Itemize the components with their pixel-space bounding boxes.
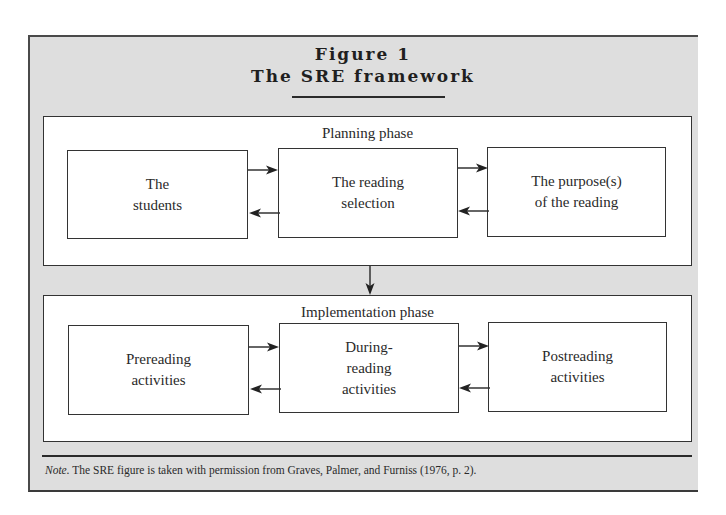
- box-line: Postreading: [542, 346, 613, 367]
- figure-title: The SRE framework: [0, 66, 726, 86]
- box-reading-selection: The reading selection: [278, 148, 458, 238]
- box-prereading: Prereading activities: [68, 325, 249, 415]
- box-line: The purpose(s): [531, 171, 621, 192]
- note-prefix: Note.: [45, 464, 70, 476]
- box-line: During-: [345, 337, 393, 358]
- note-text: The SRE figure is taken with permission …: [70, 464, 477, 476]
- box-line: of the reading: [535, 192, 618, 213]
- arrow-right-icon: [458, 340, 490, 352]
- figure-label: Figure 1: [0, 44, 726, 64]
- box-line: activities: [131, 370, 185, 391]
- title-underline: [292, 96, 445, 98]
- box-line: reading: [347, 358, 392, 379]
- box-line: activities: [342, 379, 396, 400]
- figure-note: Note. The SRE figure is taken with permi…: [45, 464, 477, 476]
- note-divider: [42, 455, 692, 457]
- arrow-left-icon: [458, 382, 490, 394]
- box-line: activities: [550, 367, 604, 388]
- box-during-reading: During- reading activities: [279, 323, 459, 413]
- box-line: students: [133, 195, 182, 216]
- box-line: selection: [341, 193, 394, 214]
- planning-phase-label: Planning phase: [44, 125, 691, 142]
- arrow-right-icon: [247, 164, 279, 176]
- arrow-right-icon: [248, 341, 280, 353]
- box-students: The students: [67, 150, 248, 239]
- arrow-left-icon: [248, 207, 280, 219]
- box-line: Prereading: [126, 349, 191, 370]
- box-purposes: The purpose(s) of the reading: [487, 147, 666, 237]
- arrow-down-icon: [364, 266, 376, 296]
- arrow-right-icon: [457, 162, 489, 174]
- box-line: The: [146, 174, 169, 195]
- arrow-left-icon: [457, 205, 489, 217]
- box-postreading: Postreading activities: [488, 322, 667, 412]
- implementation-phase-label: Implementation phase: [44, 304, 691, 321]
- box-line: The reading: [332, 172, 404, 193]
- arrow-left-icon: [249, 383, 281, 395]
